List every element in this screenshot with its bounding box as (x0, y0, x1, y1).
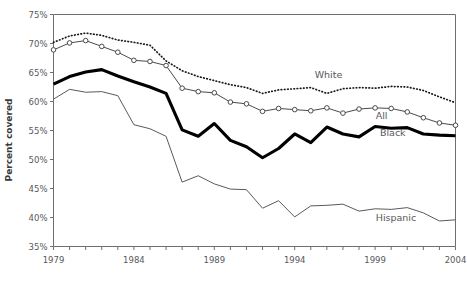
data-point-marker-all (357, 107, 362, 112)
data-point-marker-all (67, 41, 72, 46)
data-point-marker-all (421, 115, 426, 120)
y-tick-label: 45% (29, 184, 48, 194)
chart-container: 35%40%45%50%55%60%65%70%75% 197919841989… (0, 0, 467, 282)
data-point-marker-all (83, 38, 88, 43)
data-point-marker-all (453, 123, 458, 128)
data-point-marker-all (164, 63, 169, 68)
y-tick-label: 65% (29, 68, 48, 78)
data-point-marker-all (148, 59, 153, 64)
series-label-white: White (315, 69, 343, 80)
data-point-marker-all (308, 108, 313, 113)
data-point-marker-all (389, 106, 394, 111)
x-tick-label: 1999 (364, 255, 386, 265)
y-tick-label: 55% (29, 126, 48, 136)
data-point-marker-all (437, 121, 442, 126)
series-label-black: Black (380, 127, 406, 138)
data-point-marker-all (132, 58, 137, 63)
data-point-marker-all (180, 86, 185, 91)
data-point-marker-all (228, 100, 233, 105)
data-point-marker-all (260, 109, 265, 114)
data-point-marker-all (244, 102, 249, 107)
data-point-marker-all (99, 44, 104, 49)
data-point-marker-all (51, 48, 56, 53)
data-point-marker-all (276, 106, 281, 111)
x-tick-label: 1979 (43, 255, 65, 265)
y-tick-label: 60% (29, 97, 48, 107)
y-tick-label: 35% (29, 242, 48, 252)
y-tick-label: 50% (29, 155, 48, 165)
x-tick-label: 1994 (284, 255, 306, 265)
series-label-hispanic: Hispanic (376, 212, 416, 223)
data-point-marker-all (292, 107, 297, 112)
series-label-all: All (376, 110, 388, 121)
y-tick-label: 40% (29, 213, 48, 223)
x-tick-label: 2004 (445, 255, 467, 265)
x-tick-label: 1984 (123, 255, 145, 265)
data-point-marker-all (196, 89, 201, 94)
data-point-marker-all (341, 111, 346, 116)
y-axis-title: Percent covered (4, 99, 14, 182)
data-point-marker-all (325, 106, 330, 111)
y-tick-label: 70% (29, 39, 48, 49)
y-axis-tick-labels: 35%40%45%50%55%60%65%70%75% (29, 10, 48, 252)
health-coverage-line-chart: 35%40%45%50%55%60%65%70%75% 197919841989… (0, 0, 467, 282)
x-tick-label: 1989 (203, 255, 225, 265)
y-tick-label: 75% (29, 10, 48, 20)
data-point-marker-all (405, 110, 410, 115)
data-point-marker-all (212, 91, 217, 96)
data-point-marker-all (116, 50, 121, 55)
